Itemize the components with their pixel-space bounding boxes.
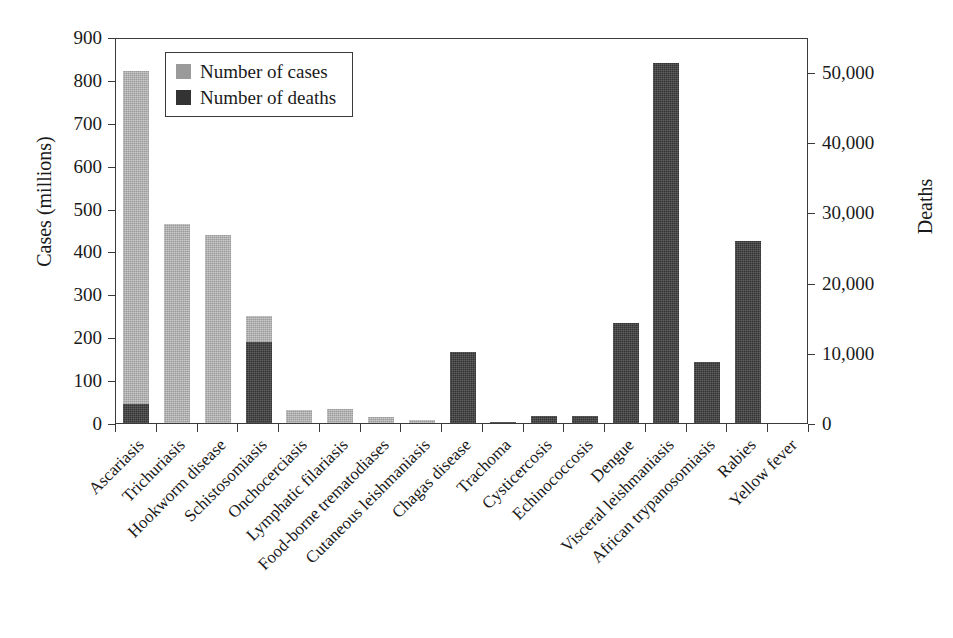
bar-deaths [735,241,761,423]
y-tick-left [108,338,115,339]
y-tick-right [808,424,815,425]
legend-item: Number of cases [176,58,336,84]
bar-group [776,39,802,423]
bar-cases [327,409,353,423]
y-tick-label-left: 600 [20,157,102,176]
bar-group [653,39,679,423]
legend-label: Number of cases [200,62,328,81]
y-tick-right [808,284,815,285]
bar-deaths [246,342,272,423]
y-tick-label-left: 400 [20,242,102,261]
bar-group [531,39,557,423]
bar-cases [205,235,231,423]
y-tick-label-left: 500 [20,200,102,219]
x-tick [360,424,361,432]
bar-group [368,39,394,423]
bar-deaths [694,362,720,423]
bar-deaths [490,422,516,424]
x-tick [482,424,483,432]
x-tick [767,424,768,432]
bar-cases [123,71,149,423]
bar-group [735,39,761,423]
y-tick-label-left: 0 [20,414,102,433]
y-tick-left [108,424,115,425]
x-tick [645,424,646,432]
x-tick [523,424,524,432]
bar-cases [164,224,190,423]
y-tick-right [808,73,815,74]
y-tick-left [108,295,115,296]
bar-cases [368,417,394,423]
bar-group [613,39,639,423]
x-tick [726,424,727,432]
y-tick-label-right: 50,000 [822,63,874,82]
x-tick [563,424,564,432]
y-tick-label-right: 20,000 [822,274,874,293]
y-tick-label-left: 100 [20,371,102,390]
x-tick [686,424,687,432]
x-tick [604,424,605,432]
bar-group [123,39,149,423]
legend-item: Number of deaths [176,84,336,110]
bar-cases [409,420,435,423]
y-tick-left [108,210,115,211]
x-tick [319,424,320,432]
bar-deaths [572,416,598,423]
legend-label: Number of deaths [200,88,336,107]
bar-group [450,39,476,423]
bar-deaths [123,404,149,423]
y-tick-label-left: 200 [20,328,102,347]
x-tick [278,424,279,432]
bar-group [694,39,720,423]
y-tick-label-left: 800 [20,71,102,90]
y-tick-label-right: 10,000 [822,344,874,363]
bar-group [490,39,516,423]
bar-deaths [531,416,557,423]
x-tick [156,424,157,432]
y-tick-right [808,143,815,144]
chart-figure: Cases (millions) Deaths 0100200300400500… [0,0,953,638]
bar-deaths [450,352,476,423]
x-tick [115,424,116,432]
y-tick-left [108,124,115,125]
y-tick-left [108,81,115,82]
y-tick-label-right: 30,000 [822,203,874,222]
y-tick-label-left: 700 [20,114,102,133]
y-tick-label-right: 0 [822,414,832,433]
bar-deaths [613,323,639,423]
y-tick-right [808,213,815,214]
x-tick [441,424,442,432]
y-tick-left [108,381,115,382]
x-tick [808,424,809,432]
y-tick-label-left: 300 [20,285,102,304]
y-tick-left [108,38,115,39]
y-axis-right-title: Deaths [914,137,937,277]
x-tick [237,424,238,432]
bar-group [572,39,598,423]
y-tick-left [108,167,115,168]
cases-swatch [176,64,191,79]
y-tick-left [108,252,115,253]
y-tick-label-left: 900 [20,28,102,47]
y-tick-label-right: 40,000 [822,133,874,152]
x-tick [400,424,401,432]
bar-cases [286,410,312,423]
x-tick [197,424,198,432]
bar-deaths [653,63,679,423]
y-tick-right [808,354,815,355]
deaths-swatch [176,90,191,105]
chart-legend: Number of casesNumber of deaths [165,52,353,117]
bar-group [409,39,435,423]
